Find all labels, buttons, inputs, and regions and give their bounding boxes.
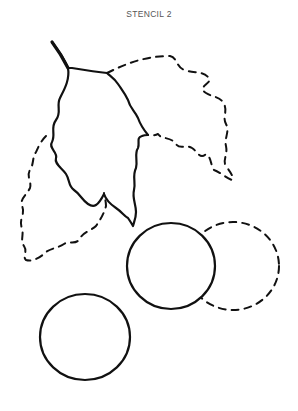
leaf-main-stem xyxy=(52,42,68,68)
berry-lower-outline xyxy=(40,294,130,380)
leaf-left-outline xyxy=(21,136,106,261)
berry-center-outline xyxy=(127,223,215,309)
stencil-drawing xyxy=(0,0,298,411)
leaf-right-outline xyxy=(107,56,233,180)
leaf-main-outline xyxy=(51,42,148,226)
